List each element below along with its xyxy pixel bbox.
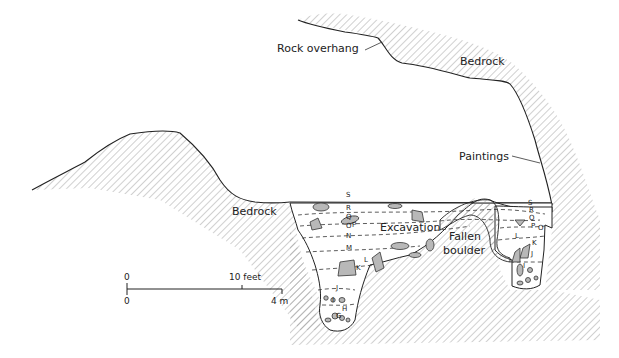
layer-r: R bbox=[346, 204, 351, 212]
layer-s: S bbox=[346, 191, 351, 199]
label-boulder: boulder bbox=[443, 244, 485, 257]
layer-m: M bbox=[346, 244, 352, 252]
scale-feet-zero: 0 bbox=[124, 272, 130, 282]
cave-section-diagram: S R Q P O N M L K J I H G S R Q P O L K … bbox=[0, 0, 619, 358]
scale-m-end: 4 m bbox=[271, 296, 288, 306]
layer-l: L bbox=[364, 256, 368, 264]
svg-text:L: L bbox=[515, 232, 519, 240]
layer-n: N bbox=[346, 232, 351, 240]
svg-text:J: J bbox=[530, 250, 533, 258]
label-paintings: Paintings bbox=[459, 150, 509, 163]
overhang-leader bbox=[365, 42, 382, 50]
layer-k: K bbox=[356, 264, 361, 272]
layer-p: P bbox=[352, 221, 356, 229]
scale-m-zero: 0 bbox=[124, 296, 130, 306]
label-bedrock-lower: Bedrock bbox=[232, 205, 277, 218]
layer-o: O bbox=[346, 222, 352, 230]
svg-text:O: O bbox=[538, 224, 544, 232]
svg-text:I: I bbox=[523, 262, 525, 270]
label-bedrock-upper: Bedrock bbox=[460, 55, 505, 68]
scale-feet-end: 10 feet bbox=[229, 272, 262, 282]
svg-text:K: K bbox=[532, 239, 537, 247]
layer-j: J bbox=[335, 284, 338, 292]
svg-text:R: R bbox=[529, 206, 534, 214]
svg-text:P: P bbox=[531, 222, 535, 230]
svg-text:Q: Q bbox=[529, 214, 535, 222]
label-fallen: Fallen bbox=[449, 230, 481, 243]
layer-h: H bbox=[342, 305, 347, 313]
label-excavation: Excavation bbox=[380, 221, 440, 234]
label-rock-overhang: Rock overhang bbox=[277, 42, 359, 55]
layer-i: I bbox=[332, 296, 334, 304]
layer-g: G bbox=[336, 312, 341, 320]
layer-q: Q bbox=[346, 213, 352, 221]
paintings-leader bbox=[512, 156, 540, 163]
